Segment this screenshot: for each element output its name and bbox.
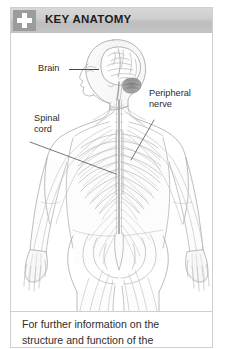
body-group: [24, 40, 209, 311]
footer-line-1: For further information on the: [22, 317, 204, 333]
footer-line-2: structure and function of the: [22, 333, 204, 349]
label-brain-line1: Brain: [38, 63, 59, 73]
label-peripheral-nerve-line1: Peripheral: [149, 88, 191, 99]
brain-leader-line: [69, 69, 99, 70]
label-spinal-cord-line2: cord: [34, 124, 60, 135]
card-header: KEY ANATOMY: [11, 8, 213, 33]
further-information-text: For further information on the structure…: [22, 317, 204, 348]
label-spinal-cord-line1: Spinal: [34, 113, 60, 124]
key-anatomy-card: KEY ANATOMY: [10, 7, 213, 348]
card-title: KEY ANATOMY: [45, 13, 132, 25]
label-spinal-cord: Spinal cord: [34, 113, 60, 135]
sacrum: [115, 234, 124, 270]
left-hand: [24, 250, 47, 291]
label-peripheral-nerve: Peripheral nerve: [149, 88, 191, 110]
label-brain: Brain: [38, 63, 59, 74]
label-peripheral-nerve-line2: nerve: [149, 99, 191, 110]
head-group: [80, 40, 146, 110]
right-hand: [186, 250, 209, 291]
cross-vertical-bar: [22, 13, 27, 28]
right-arm-shading: [169, 158, 203, 254]
medical-cross-icon: [13, 10, 36, 31]
anatomy-svg: [11, 34, 212, 311]
spinal-cord-group: [115, 100, 123, 234]
content-divider: [11, 311, 212, 312]
nervous-system-illustration: Brain Spinal cord Peripheral nerve: [11, 34, 212, 311]
